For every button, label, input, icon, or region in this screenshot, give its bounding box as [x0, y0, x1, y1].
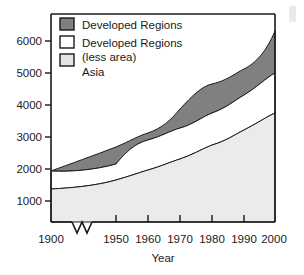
y-tick-label-5000: 5000	[16, 67, 42, 79]
x-tick-label-2000: 2000	[261, 233, 287, 245]
x-tick-label-1970: 1970	[167, 233, 193, 245]
scan-artifact	[289, 6, 296, 22]
y-tick-label-6000: 6000	[16, 35, 42, 47]
y-tick-label-4000: 4000	[16, 99, 42, 111]
population-area-chart: 6000 5000 4000 3000 2000 1000 1900 1950 …	[0, 0, 304, 275]
y-tick-label-3000: 3000	[16, 131, 42, 143]
legend-label-asia: Asia	[82, 66, 105, 78]
legend-swatch-developed-regions-less-area	[60, 36, 74, 48]
x-tick-label-1950: 1950	[103, 233, 129, 245]
legend-label-developed-regions-less-area: Developed Regions	[82, 37, 183, 49]
legend-label-developed-regions: Developed Regions	[82, 19, 183, 31]
chart-container: 6000 5000 4000 3000 2000 1000 1900 1950 …	[0, 0, 304, 275]
legend-swatch-asia	[60, 54, 74, 66]
y-tick-label-2000: 2000	[16, 163, 42, 175]
x-tick-label-1990: 1990	[231, 233, 257, 245]
x-tick-label-1980: 1980	[199, 233, 225, 245]
legend-swatch-developed-regions	[60, 18, 74, 30]
y-tick-label-1000: 1000	[16, 195, 42, 207]
legend-label-developed-regions-less-area-line2: (less area)	[82, 51, 136, 63]
x-tick-label-1900: 1900	[38, 233, 64, 245]
x-axis-title: Year	[151, 252, 174, 264]
x-tick-label-1960: 1960	[135, 233, 161, 245]
